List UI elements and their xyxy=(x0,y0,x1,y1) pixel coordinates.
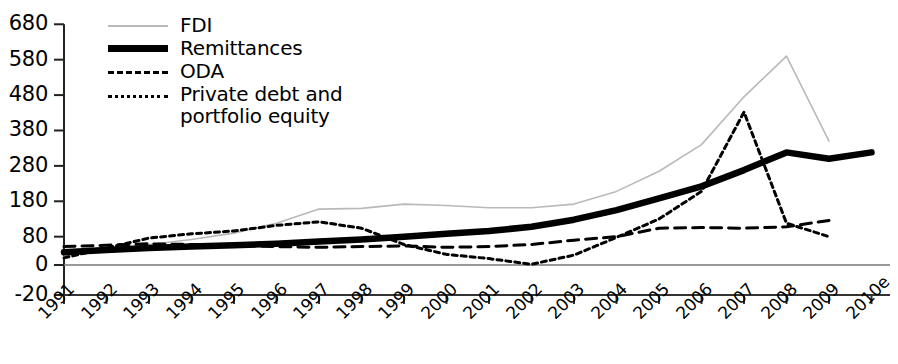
chart-legend: FDI Remittances ODA Private debt andport… xyxy=(108,14,348,128)
legend-label-private-debt-line1: Private debt and xyxy=(180,82,342,106)
fdi-line-sample-icon xyxy=(108,25,168,35)
y-axis-tick-label: 680 xyxy=(0,13,48,34)
legend-item-private-debt: Private debt andportfolio equity xyxy=(108,83,348,127)
chart-container: -20080180280380480580680 199119921993199… xyxy=(0,0,898,364)
y-axis-tick-label: 0 xyxy=(0,254,48,275)
y-axis-tick-label: 180 xyxy=(0,190,48,211)
legend-label-remittances: Remittances xyxy=(180,37,348,59)
y-axis-tick-label: 80 xyxy=(0,226,48,247)
legend-item-remittances: Remittances xyxy=(108,37,348,59)
legend-label-fdi: FDI xyxy=(180,14,348,36)
remittances-line-sample-icon xyxy=(108,45,168,60)
y-axis-tick-label: 580 xyxy=(0,49,48,70)
oda-line-sample-icon xyxy=(108,71,168,82)
y-axis-tick-label: 380 xyxy=(0,119,48,140)
series-line-remittances xyxy=(64,152,872,252)
y-axis-tick-label: 280 xyxy=(0,155,48,176)
private-debt-line-sample-icon xyxy=(108,95,168,106)
legend-item-fdi: FDI xyxy=(108,14,348,36)
legend-item-oda: ODA xyxy=(108,60,348,82)
legend-label-oda: ODA xyxy=(180,60,348,82)
y-axis-tick-label: 480 xyxy=(0,84,48,105)
legend-label-private-debt: Private debt andportfolio equity xyxy=(180,83,348,127)
legend-label-private-debt-line2: portfolio equity xyxy=(180,104,330,128)
